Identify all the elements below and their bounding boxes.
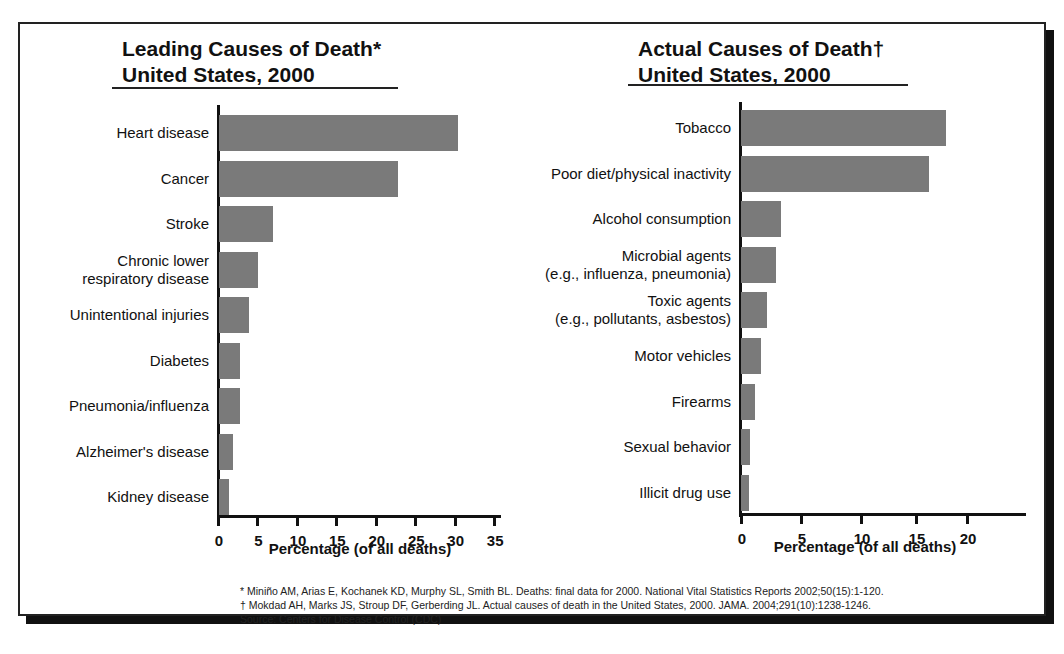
category-label: Illicit drug use — [471, 484, 731, 502]
bar — [219, 206, 273, 242]
footnote-2: † Mokdad AH, Marks JS, Stroup DF, Gerber… — [240, 598, 884, 612]
bar — [741, 429, 750, 465]
category-label: Chronic lower respiratory disease — [9, 252, 209, 288]
right-title-line1: Actual Causes of Death† — [638, 36, 884, 62]
bar — [741, 338, 761, 374]
bar — [219, 388, 240, 424]
x-tick — [256, 517, 259, 526]
category-label: Cancer — [9, 170, 209, 188]
left-title-underline — [112, 87, 398, 89]
bar — [219, 252, 258, 288]
right-x-axis — [739, 513, 1026, 516]
bar — [219, 297, 249, 333]
category-label: Kidney disease — [9, 488, 209, 506]
bar — [741, 110, 946, 146]
category-label: Motor vehicles — [471, 347, 731, 365]
category-label: Poor diet/physical inactivity — [471, 165, 731, 183]
footnote-1: * Miniño AM, Arias E, Kochanek KD, Murph… — [240, 584, 884, 598]
category-label: Toxic agents (e.g., pollutants, asbestos… — [471, 292, 731, 328]
category-label: Pneumonia/influenza — [9, 397, 209, 415]
left-x-axis — [217, 515, 501, 518]
category-label: Unintentional injuries — [9, 306, 209, 324]
x-tick — [966, 515, 969, 524]
x-tick — [414, 517, 417, 526]
bar — [741, 201, 781, 237]
x-tick — [217, 517, 220, 526]
x-tick — [375, 517, 378, 526]
right-chart-title: Actual Causes of Death† United States, 2… — [638, 36, 884, 88]
bar — [219, 115, 458, 151]
x-tick — [800, 515, 803, 524]
category-label: Alcohol consumption — [471, 210, 731, 228]
left-chart-title: Leading Causes of Death* United States, … — [122, 36, 381, 88]
x-tick — [454, 517, 457, 526]
bar — [741, 475, 749, 511]
left-title-line2: United States, 2000 — [122, 62, 381, 88]
bar — [219, 434, 233, 470]
footnotes: * Miniño AM, Arias E, Kochanek KD, Murph… — [240, 584, 884, 626]
left-x-axis-title: Percentage (of all deaths) — [218, 540, 502, 557]
category-label: Alzheimer's disease — [9, 443, 209, 461]
bar — [219, 161, 398, 197]
right-title-underline — [628, 84, 908, 86]
x-tick — [740, 515, 743, 524]
x-tick — [335, 517, 338, 526]
source-note: Source: Centers for Disease Control (CDC… — [240, 612, 884, 626]
category-label: Heart disease — [9, 124, 209, 142]
bar — [741, 292, 767, 328]
bar — [741, 384, 755, 420]
x-tick — [915, 515, 918, 524]
right-x-axis-title: Percentage (of all deaths) — [740, 538, 990, 555]
category-label: Diabetes — [9, 352, 209, 370]
bar — [741, 247, 776, 283]
x-tick — [296, 517, 299, 526]
category-label: Firearms — [471, 393, 731, 411]
left-title-line1: Leading Causes of Death* — [122, 36, 381, 62]
x-tick — [860, 515, 863, 524]
category-label: Sexual behavior — [471, 438, 731, 456]
bar — [741, 156, 929, 192]
category-label: Tobacco — [471, 119, 731, 137]
category-label: Stroke — [9, 215, 209, 233]
x-tick — [493, 517, 496, 526]
category-label: Microbial agents (e.g., influenza, pneum… — [471, 247, 731, 283]
bar — [219, 343, 240, 379]
bar — [219, 479, 229, 515]
